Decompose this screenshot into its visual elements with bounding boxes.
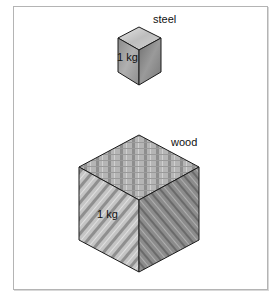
wood-label: wood (171, 137, 197, 148)
cubes-illustration (0, 0, 277, 297)
steel-mass-label: 1 kg (117, 52, 138, 63)
wood-cube (79, 135, 199, 272)
steel-label: steel (153, 14, 176, 25)
wood-mass-label: 1 kg (97, 209, 118, 220)
